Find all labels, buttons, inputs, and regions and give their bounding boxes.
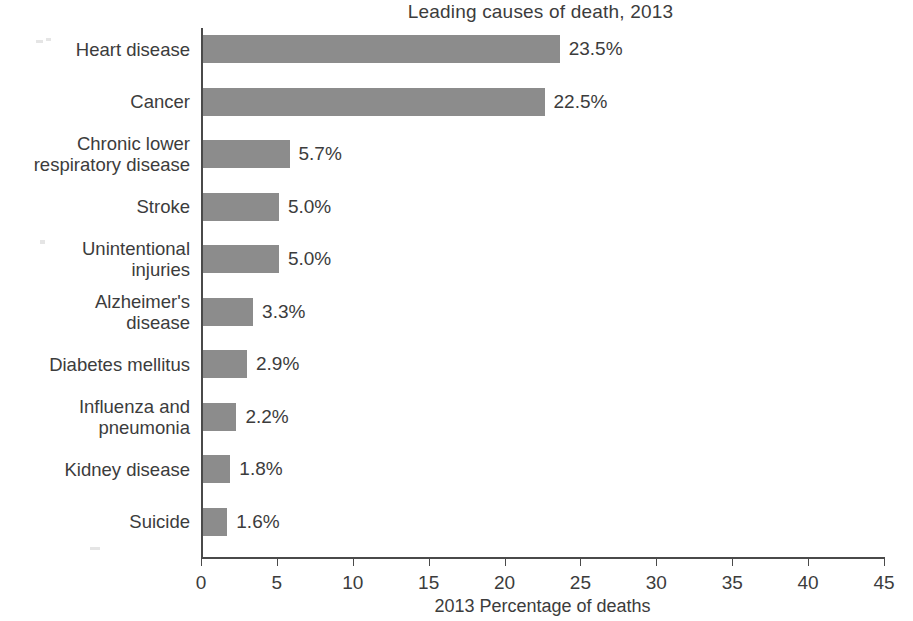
- bar-row: 22.5%: [203, 88, 886, 116]
- bar-value-label: 3.3%: [253, 301, 305, 323]
- category-label: Diabetes mellitus: [11, 354, 201, 375]
- category-label: Cancer: [11, 91, 201, 112]
- x-axis-tick: [353, 557, 354, 566]
- x-axis-tick: [580, 557, 581, 566]
- bar-row: 23.5%: [203, 35, 886, 63]
- category-label: Unintentionalinjuries: [11, 238, 201, 280]
- bar-value-label: 1.6%: [227, 511, 279, 533]
- bar-value-label: 22.5%: [545, 91, 608, 113]
- bar: [203, 140, 290, 168]
- x-axis-line: [201, 557, 884, 559]
- x-axis-tick-label: 40: [798, 572, 819, 594]
- category-label-line: Cancer: [11, 91, 190, 112]
- bar-value-label: 2.2%: [236, 406, 288, 428]
- x-axis-tick-label: 20: [494, 572, 515, 594]
- plot-area: 23.5%22.5%5.7%5.0%5.0%3.3%2.9%2.2%1.8%1.…: [201, 28, 884, 557]
- category-label-line: Unintentional: [11, 238, 190, 259]
- bar: [203, 245, 279, 273]
- category-label: Suicide: [11, 511, 201, 532]
- x-axis-tick: [429, 557, 430, 566]
- scan-artifact: [36, 40, 43, 43]
- category-label-line: pneumonia: [11, 417, 190, 438]
- bar-row: 3.3%: [203, 298, 886, 326]
- x-axis-tick: [732, 557, 733, 566]
- bar-row: 2.9%: [203, 350, 886, 378]
- x-axis-tick: [505, 557, 506, 566]
- x-axis-tick: [201, 557, 202, 566]
- bar: [203, 88, 545, 116]
- scan-artifact: [46, 38, 51, 41]
- category-label-line: Influenza and: [11, 396, 190, 417]
- category-label: Chronic lowerrespiratory disease: [11, 133, 201, 175]
- x-axis-title: 2013 Percentage of deaths: [201, 596, 884, 617]
- bar-row: 5.0%: [203, 193, 886, 221]
- bar-value-label: 5.7%: [290, 143, 342, 165]
- category-label-line: injuries: [11, 259, 190, 280]
- x-axis-tick-label: 35: [722, 572, 743, 594]
- category-label: Alzheimer'sdisease: [11, 291, 201, 333]
- bar-value-label: 2.9%: [247, 353, 299, 375]
- x-axis-tick: [808, 557, 809, 566]
- x-axis-tick-label: 45: [873, 572, 894, 594]
- bar: [203, 298, 253, 326]
- bar-row: 1.6%: [203, 508, 886, 536]
- bar: [203, 350, 247, 378]
- bar-chart: Leading causes of death, 2013 Heart dise…: [0, 0, 913, 621]
- bar-value-label: 1.8%: [230, 458, 282, 480]
- category-label-line: Suicide: [11, 511, 190, 532]
- bar: [203, 455, 230, 483]
- category-label: Influenza andpneumonia: [11, 396, 201, 438]
- category-label-line: Stroke: [11, 196, 190, 217]
- x-axis-tick: [884, 557, 885, 566]
- scan-artifact: [40, 240, 45, 244]
- bar-value-label: 23.5%: [560, 38, 623, 60]
- bar: [203, 508, 227, 536]
- x-axis-tick-label: 25: [570, 572, 591, 594]
- chart-title-text: Leading causes of death, 2013: [408, 1, 674, 23]
- category-label-line: disease: [11, 312, 190, 333]
- bar: [203, 35, 560, 63]
- x-axis-tick-label: 0: [196, 572, 207, 594]
- category-label-line: Chronic lower: [11, 133, 190, 154]
- bar-row: 5.0%: [203, 245, 886, 273]
- bar-value-label: 5.0%: [279, 196, 331, 218]
- x-axis-tick-label: 5: [272, 572, 283, 594]
- category-label-line: Diabetes mellitus: [11, 354, 190, 375]
- x-axis-tick-label: 15: [418, 572, 439, 594]
- category-label-line: Kidney disease: [11, 459, 190, 480]
- x-axis-tick-label: 30: [646, 572, 667, 594]
- bar-row: 2.2%: [203, 403, 886, 431]
- category-label-line: respiratory disease: [11, 154, 190, 175]
- category-label: Stroke: [11, 196, 201, 217]
- x-axis-tick: [277, 557, 278, 566]
- x-axis-tick: [656, 557, 657, 566]
- bar: [203, 193, 279, 221]
- chart-title: Leading causes of death, 2013: [0, 1, 913, 23]
- scan-artifact: [90, 547, 100, 550]
- category-label-line: Alzheimer's: [11, 291, 190, 312]
- x-axis-tick-label: 10: [342, 572, 363, 594]
- bar-value-label: 5.0%: [279, 248, 331, 270]
- bar-row: 5.7%: [203, 140, 886, 168]
- bar-row: 1.8%: [203, 455, 886, 483]
- category-axis-labels: Heart diseaseCancerChronic lowerrespirat…: [0, 28, 201, 557]
- category-label: Kidney disease: [11, 459, 201, 480]
- bar: [203, 403, 236, 431]
